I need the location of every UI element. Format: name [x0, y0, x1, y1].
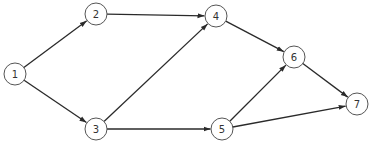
- node-label: 2: [93, 9, 99, 20]
- node-7: 7: [346, 93, 368, 115]
- node-label: 3: [93, 124, 99, 135]
- edge-1-to-2: [24, 21, 87, 68]
- node-1: 1: [4, 63, 26, 85]
- node-3: 3: [85, 118, 107, 140]
- edges-layer: [24, 14, 348, 129]
- node-label: 7: [354, 99, 360, 110]
- network-diagram: 1234567: [0, 0, 373, 146]
- node-5: 5: [211, 118, 233, 140]
- edge-5-to-6: [230, 65, 286, 121]
- edge-4-to-6: [226, 21, 284, 52]
- edge-1-to-3: [24, 80, 86, 122]
- edge-5-to-7: [233, 106, 346, 127]
- node-2: 2: [85, 3, 107, 25]
- node-6: 6: [283, 46, 305, 68]
- edge-2-to-4: [107, 14, 205, 16]
- node-label: 4: [213, 11, 219, 22]
- node-4: 4: [205, 5, 227, 27]
- edge-6-to-7: [303, 64, 348, 98]
- node-label: 5: [219, 124, 225, 135]
- node-label: 1: [12, 69, 18, 80]
- edge-3-to-4: [104, 24, 208, 122]
- node-label: 6: [291, 52, 297, 63]
